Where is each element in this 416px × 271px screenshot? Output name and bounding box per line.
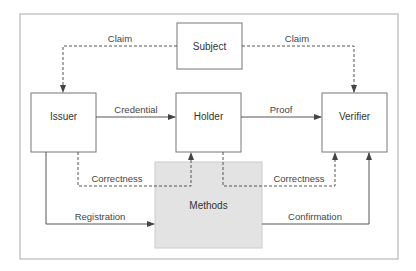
credential-label: Credential — [114, 104, 157, 115]
registration-label: Registration — [75, 211, 126, 222]
diagram-canvas: Subject Issuer Holder Verifier Methods C… — [0, 0, 416, 271]
claim-left-label: Claim — [108, 33, 132, 44]
proof-label: Proof — [270, 104, 293, 115]
verifier-box[interactable] — [322, 93, 387, 152]
issuer-label: Issuer — [50, 111, 78, 122]
methods-label: Methods — [189, 200, 227, 211]
holder-label: Holder — [194, 111, 224, 122]
claim-right-label: Claim — [285, 33, 309, 44]
issuer-box[interactable] — [31, 93, 96, 152]
subject-label: Subject — [193, 41, 227, 52]
verifier-label: Verifier — [339, 111, 371, 122]
confirmation-label: Confirmation — [288, 211, 342, 222]
holder-box[interactable] — [176, 93, 241, 152]
correctness-left-label: Correctness — [91, 173, 142, 184]
correctness-right-label: Correctness — [273, 173, 324, 184]
